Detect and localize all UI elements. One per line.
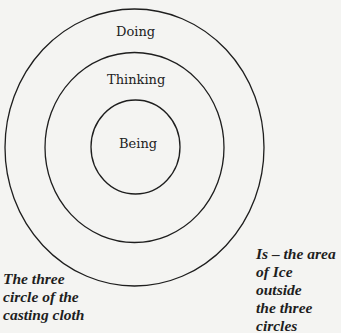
- caption-right-line-3: the three: [256, 299, 341, 317]
- caption-casting-cloth: The three circle of the casting cloth: [3, 270, 84, 324]
- label-doing: Doing: [116, 24, 155, 39]
- caption-right-line-2: of Ice outside: [256, 263, 341, 299]
- caption-left-line-2: circle of the: [3, 288, 84, 306]
- caption-left-line-3: casting cloth: [3, 306, 84, 324]
- label-thinking: Thinking: [107, 72, 165, 87]
- label-being: Being: [119, 136, 157, 151]
- caption-right-line-1: Is – the area: [256, 245, 341, 263]
- caption-left-line-1: The three: [3, 270, 84, 288]
- caption-area-of-ice: Is – the area of Ice outside the three c…: [256, 245, 341, 333]
- caption-right-line-4: circles: [256, 317, 341, 333]
